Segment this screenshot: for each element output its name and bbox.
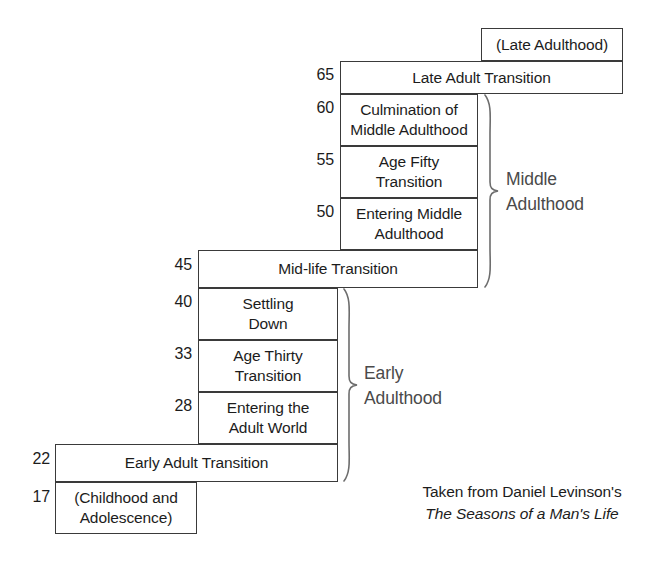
stage-label-mid-life-transition: Mid-life Transition bbox=[278, 259, 398, 279]
attribution-work-title: The Seasons of a Man's Life bbox=[404, 503, 640, 525]
stage-box-late-adult-transition: Late Adult Transition bbox=[340, 61, 623, 94]
stage-label-settling-down: Settling Down bbox=[243, 294, 294, 334]
age-marker-60: 60 bbox=[292, 99, 334, 117]
stage-label-late-adult-transition: Late Adult Transition bbox=[412, 68, 550, 88]
stage-box-late-adulthood: (Late Adulthood) bbox=[481, 28, 623, 61]
stage-box-entering-adult-world: Entering the Adult World bbox=[198, 392, 338, 444]
stage-label-age-fifty-transition: Age Fifty Transition bbox=[376, 152, 442, 192]
age-marker-65: 65 bbox=[292, 66, 334, 84]
age-marker-45: 45 bbox=[150, 256, 192, 274]
stage-label-late-adulthood: (Late Adulthood) bbox=[496, 35, 608, 55]
stage-box-entering-middle-adulthood: Entering Middle Adulthood bbox=[340, 198, 478, 250]
stage-label-age-thirty-transition: Age Thirty Transition bbox=[233, 346, 302, 386]
stage-box-mid-life-transition: Mid-life Transition bbox=[198, 250, 478, 288]
era-label-middle-adulthood: Middle Adulthood bbox=[506, 167, 584, 217]
stage-label-entering-adult-world: Entering the Adult World bbox=[227, 398, 309, 438]
age-marker-50: 50 bbox=[292, 203, 334, 221]
age-marker-17: 17 bbox=[8, 488, 50, 506]
stage-box-age-fifty-transition: Age Fifty Transition bbox=[340, 146, 478, 198]
stage-label-culmination-middle-adulthood: Culmination of Middle Adulthood bbox=[350, 100, 467, 140]
attribution-credit: Taken from Daniel Levinson's bbox=[422, 483, 621, 500]
era-bracket-early-adulthood bbox=[341, 288, 359, 482]
stage-box-settling-down: Settling Down bbox=[198, 288, 338, 340]
stage-label-early-adult-transition: Early Adult Transition bbox=[125, 453, 268, 473]
attribution: Taken from Daniel Levinson's The Seasons… bbox=[404, 481, 640, 526]
age-marker-40: 40 bbox=[150, 293, 192, 311]
stage-box-age-thirty-transition: Age Thirty Transition bbox=[198, 340, 338, 392]
era-bracket-middle-adulthood bbox=[482, 94, 500, 288]
stage-box-early-adult-transition: Early Adult Transition bbox=[55, 444, 338, 482]
stage-box-childhood-adolescence: (Childhood and Adolescence) bbox=[55, 482, 197, 534]
age-marker-28: 28 bbox=[150, 397, 192, 415]
age-marker-33: 33 bbox=[150, 345, 192, 363]
stage-label-entering-middle-adulthood: Entering Middle Adulthood bbox=[356, 204, 462, 244]
stage-box-culmination-middle-adulthood: Culmination of Middle Adulthood bbox=[340, 94, 478, 146]
age-marker-22: 22 bbox=[8, 450, 50, 468]
levinson-stage-diagram: (Late Adulthood) Late Adult Transition C… bbox=[0, 0, 660, 574]
era-label-early-adulthood: Early Adulthood bbox=[364, 361, 442, 411]
stage-label-childhood-adolescence: (Childhood and Adolescence) bbox=[74, 488, 178, 528]
age-marker-55: 55 bbox=[292, 151, 334, 169]
